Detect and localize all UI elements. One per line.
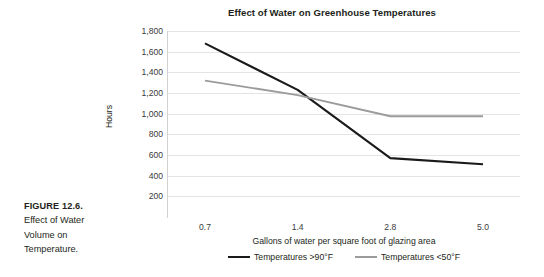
- series-lines: [168, 31, 520, 217]
- x-tick-label: 1.4: [292, 222, 304, 232]
- y-tick-label: 1,000: [123, 109, 163, 119]
- y-tick-label: 200: [123, 191, 163, 201]
- legend-label: Temperatures >90°F: [254, 252, 333, 262]
- y-tick-label: 1,600: [123, 47, 163, 57]
- x-tick-label: 0.7: [199, 222, 211, 232]
- x-tick-label: 2.8: [384, 222, 396, 232]
- legend-label: Temperatures <50°F: [381, 252, 460, 262]
- chart-title: Effect of Water on Greenhouse Temperatur…: [120, 7, 544, 18]
- legend-swatch-icon: [228, 256, 250, 258]
- chart-legend: Temperatures >90°FTemperatures <50°F: [168, 252, 520, 262]
- y-tick-label: 800: [123, 129, 163, 139]
- series-line: [205, 81, 483, 117]
- series-line: [205, 43, 483, 164]
- y-tick-label: 1,800: [123, 26, 163, 36]
- legend-item: Temperatures >90°F: [228, 252, 333, 262]
- y-axis-ticks: 2004006008001,0001,2001,4001,6001,800: [120, 0, 163, 277]
- y-tick-label: 600: [123, 150, 163, 160]
- chart-figure: Effect of Water on Greenhouse Temperatur…: [120, 0, 544, 277]
- x-tick-label: 5.0: [477, 222, 489, 232]
- y-tick-label: 1,400: [123, 67, 163, 77]
- x-axis-title: Gallons of water per square foot of glaz…: [168, 236, 520, 246]
- plot-area: [168, 31, 520, 217]
- legend-item: Temperatures <50°F: [355, 252, 460, 262]
- y-tick-label: 1,200: [123, 88, 163, 98]
- y-axis-title: Hours: [104, 105, 114, 128]
- legend-swatch-icon: [355, 256, 377, 258]
- figure-caption-text: Effect of Water Volume on Temperature.: [24, 213, 116, 256]
- figure-caption: FIGURE 12.6. Effect of Water Volume on T…: [24, 199, 116, 256]
- y-tick-label: 400: [123, 171, 163, 181]
- figure-number: FIGURE 12.6.: [24, 201, 83, 211]
